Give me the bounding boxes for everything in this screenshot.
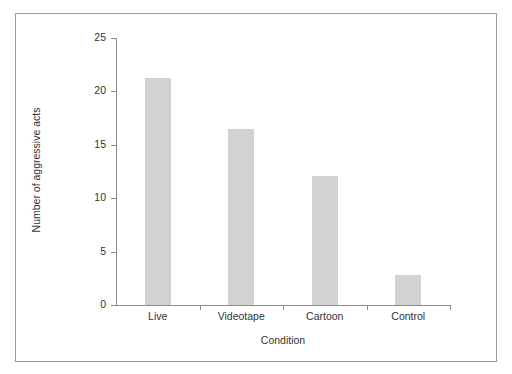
y-axis-tick-label: 0 xyxy=(62,299,106,311)
y-axis-tick-label-text: 20 xyxy=(66,85,106,96)
y-axis-tick-mark xyxy=(111,305,117,306)
x-axis-label-control: Control xyxy=(366,311,450,323)
y-axis-tick-label-text: 25 xyxy=(66,32,106,43)
x-axis-tick-mark xyxy=(200,305,201,310)
bar-control xyxy=(395,275,421,305)
y-axis-tick-mark xyxy=(111,91,117,92)
y-axis-tick-label-text: 5 xyxy=(66,246,106,257)
y-axis-tick-mark xyxy=(111,198,117,199)
y-axis-tick-label: 5 xyxy=(62,246,106,258)
x-axis-label-live: Live xyxy=(116,311,200,323)
y-axis-tick-label: 25 xyxy=(62,32,106,44)
y-axis-tick-label: 10 xyxy=(62,192,106,204)
x-axis-label-videotape: Videotape xyxy=(199,311,283,323)
y-axis-line xyxy=(116,38,117,306)
x-axis-tick-mark xyxy=(283,305,284,310)
bar-cartoon xyxy=(312,176,338,305)
y-axis-title: Number of aggressive acts xyxy=(30,90,42,250)
y-axis-tick-mark xyxy=(111,145,117,146)
x-axis-tick-mark xyxy=(367,305,368,310)
y-axis-tick-label-text: 0 xyxy=(66,299,106,310)
y-axis-tick-label-text: 10 xyxy=(66,192,106,203)
bar-videotape xyxy=(228,129,254,305)
y-axis-tick-mark xyxy=(111,252,117,253)
y-axis-tick-label: 15 xyxy=(62,139,106,151)
y-axis-tick-label-text: 15 xyxy=(66,139,106,150)
y-axis-tick-mark xyxy=(111,38,117,39)
x-axis-tick-mark xyxy=(450,305,451,310)
x-axis-title: Condition xyxy=(116,334,450,346)
y-axis-tick-label: 20 xyxy=(62,85,106,97)
figure-root: 0510152025 LiveVideotapeCartoonControl C… xyxy=(0,0,512,374)
bar-live xyxy=(145,78,171,305)
x-axis-label-cartoon: Cartoon xyxy=(283,311,367,323)
